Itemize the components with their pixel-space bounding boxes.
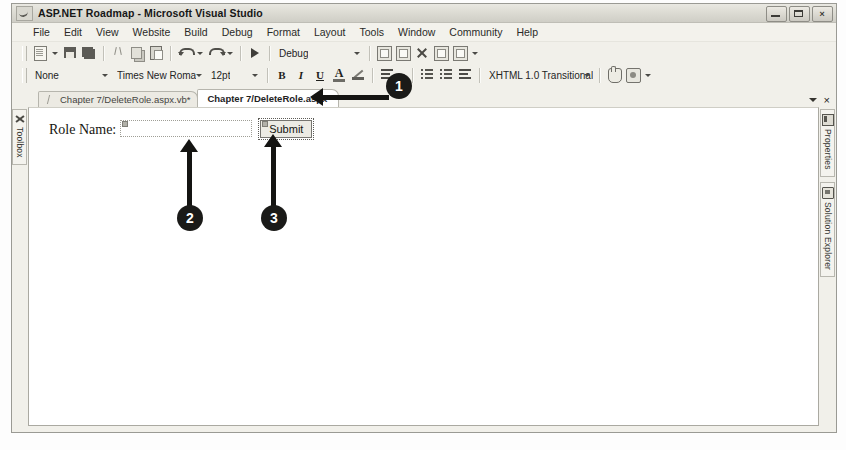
chevron-down-icon — [354, 52, 360, 55]
menu-item-format[interactable]: Format — [260, 26, 307, 38]
web-form-design-surface[interactable]: Role Name: Submit — [28, 107, 819, 426]
role-name-textbox[interactable] — [120, 120, 252, 137]
menu-item-website[interactable]: Website — [126, 26, 178, 38]
toolbar-separator — [372, 68, 374, 83]
bold-button[interactable]: B — [273, 66, 291, 84]
restore-button[interactable] — [789, 6, 810, 22]
font-size-value: 12pt — [211, 70, 230, 81]
tab-label: Chapter 7/DeleteRole.aspx.vb* — [60, 94, 190, 105]
redo-button[interactable] — [206, 44, 224, 62]
toolbar-separator — [170, 46, 172, 61]
rail-tab-toolbox[interactable]: Toolbox — [12, 109, 27, 165]
document-tab-strip: Chapter 7/DeleteRole.aspx.vb* Chapter 7/… — [12, 87, 836, 107]
solution-explorer-button[interactable] — [432, 44, 450, 62]
scissors-icon — [114, 47, 122, 58]
redo-dropdown[interactable] — [225, 44, 234, 62]
chevron-down-icon — [584, 74, 590, 77]
accessibility-check-button[interactable] — [605, 66, 623, 84]
menu-item-build[interactable]: Build — [177, 26, 214, 38]
solution-explorer-icon — [822, 187, 834, 199]
menu-item-layout[interactable]: Layout — [307, 26, 353, 38]
right-dock-rail: Properties Solution Explorer — [820, 107, 836, 426]
copy-button[interactable] — [128, 44, 146, 62]
undo-icon — [179, 48, 195, 55]
font-size-dropdown[interactable]: 12pt — [207, 67, 261, 84]
callout-3-arrowhead — [264, 134, 282, 147]
title-bar: ASP.NET Roadmap - Microsoft Visual Studi… — [12, 4, 836, 23]
bold-icon: B — [273, 66, 291, 84]
toolbar-grip[interactable] — [22, 46, 27, 61]
find-icon — [377, 46, 392, 61]
menu-item-edit[interactable]: Edit — [57, 26, 89, 38]
menu-item-debug[interactable]: Debug — [215, 26, 260, 38]
target-schema-dropdown[interactable]: XHTML 1.0 Transitional — [485, 67, 593, 84]
menu-item-file[interactable]: File — [26, 26, 57, 38]
play-icon — [251, 48, 259, 58]
close-document-icon[interactable]: × — [824, 95, 830, 105]
new-project-button[interactable] — [31, 44, 49, 62]
callout-1-line — [323, 95, 389, 100]
bulleted-list-button[interactable] — [418, 66, 436, 84]
copy-icon — [131, 47, 142, 59]
undo-button[interactable] — [176, 44, 194, 62]
toolbar-overflow-button[interactable] — [643, 66, 652, 84]
properties-icon — [822, 114, 834, 126]
cut-button[interactable] — [109, 44, 127, 62]
toolbar-overflow-button[interactable] — [470, 44, 479, 62]
underline-button[interactable]: U — [311, 66, 329, 84]
italic-button[interactable]: I — [292, 66, 310, 84]
properties-window-button[interactable] — [451, 44, 469, 62]
rail-tab-solution-explorer[interactable]: Solution Explorer — [820, 182, 835, 277]
save-button[interactable] — [61, 44, 79, 62]
toolbar-separator — [269, 46, 271, 61]
validation-button[interactable] — [624, 66, 642, 84]
rail-tab-properties[interactable]: Properties — [820, 109, 835, 177]
menu-item-window[interactable]: Window — [391, 26, 442, 38]
callout-3-line — [271, 147, 276, 214]
formatting-toolbar: None Times New Roma 12pt B I U A — [12, 64, 836, 86]
close-icon: × — [817, 10, 827, 18]
menu-item-view[interactable]: View — [89, 26, 126, 38]
pencil-icon — [352, 69, 363, 80]
font-color-icon: A — [332, 67, 346, 82]
visual-studio-icon — [16, 6, 33, 21]
solution-configuration-dropdown[interactable]: Debug — [275, 45, 363, 62]
new-item-button[interactable] — [394, 44, 412, 62]
tools-button[interactable] — [413, 44, 431, 62]
tab-delete-role-aspx-vb[interactable]: Chapter 7/DeleteRole.aspx.vb* — [38, 91, 198, 107]
find-in-files-button[interactable] — [375, 44, 393, 62]
toolbar-separator — [479, 68, 481, 83]
paste-button[interactable] — [147, 44, 165, 62]
numbered-list-button[interactable] — [437, 66, 455, 84]
close-button[interactable]: × — [812, 6, 833, 22]
indent-button[interactable] — [456, 66, 474, 84]
toolbar-grip[interactable] — [22, 68, 27, 83]
underline-icon: U — [311, 66, 329, 84]
font-family-dropdown[interactable]: Times New Roma — [113, 67, 205, 84]
toolbar-separator — [369, 46, 371, 61]
properties-icon — [453, 46, 468, 61]
new-project-dropdown[interactable] — [50, 44, 59, 62]
menu-item-tools[interactable]: Tools — [352, 26, 391, 38]
toolbar-separator — [267, 68, 269, 83]
visual-studio-window: ASP.NET Roadmap - Microsoft Visual Studi… — [11, 3, 837, 433]
menu-item-help[interactable]: Help — [509, 26, 545, 38]
italic-icon: I — [292, 66, 310, 84]
highlight-color-button[interactable] — [349, 66, 367, 84]
callout-2-arrowhead — [180, 139, 198, 152]
start-debugging-button[interactable] — [246, 44, 264, 62]
left-dock-rail: Toolbox — [12, 107, 28, 426]
undo-dropdown[interactable] — [195, 44, 204, 62]
block-format-dropdown[interactable]: None — [31, 67, 111, 84]
toolbar-separator — [412, 68, 414, 83]
solution-configuration-value: Debug — [279, 48, 308, 59]
rail-tab-label: Solution Explorer — [823, 202, 833, 270]
save-all-button[interactable] — [80, 44, 98, 62]
minimize-button[interactable] — [766, 6, 787, 22]
block-format-value: None — [35, 70, 59, 81]
redo-icon — [209, 48, 225, 55]
foreground-color-button[interactable]: A — [330, 66, 348, 84]
menu-item-community[interactable]: Community — [442, 26, 509, 38]
chevron-down-icon[interactable] — [809, 98, 817, 102]
bulleted-list-icon — [421, 69, 433, 80]
